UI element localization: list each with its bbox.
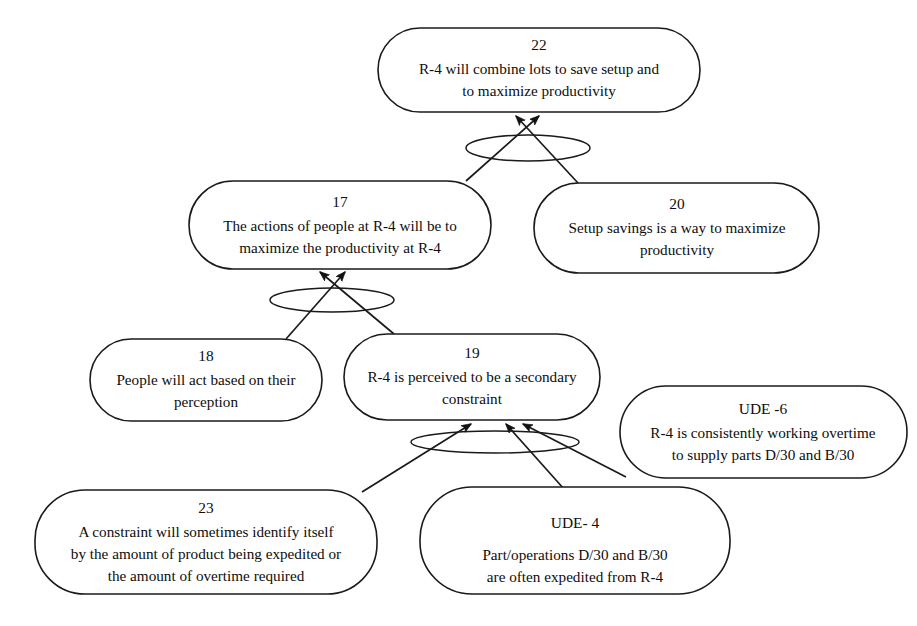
node-ude-4-line-2: are often expedited from R-4 [487,568,664,585]
node-20-line-2: productivity [640,241,715,258]
node-19-line-2: constraint [442,390,503,407]
node-ude-6[interactable]: UDE -6 R-4 is consistently working overt… [620,386,907,478]
node-19-id: 19 [464,344,480,361]
and-ellipse-into-22 [466,135,590,161]
node-ude-6-line-2: to supply parts D/30 and B/30 [672,446,855,463]
node-19[interactable]: 19 R-4 is perceived to be a secondary co… [344,334,600,420]
node-18-line-2: perception [174,393,239,410]
node-ude-4-id: UDE- 4 [551,514,600,531]
node-17-id: 17 [332,193,348,210]
node-ude-6-line-1: R-4 is consistently working overtime [650,424,876,441]
edge-17-to-22 [466,116,539,181]
edge-20-to-22 [516,116,578,183]
node-20[interactable]: 20 Setup savings is a way to maximize pr… [534,183,819,273]
node-23-line-3: the amount of overtime required [108,567,305,584]
node-19-line-1: R-4 is perceived to be a secondary [367,368,577,385]
edge-19-to-17 [320,272,394,334]
node-23-line-2: by the amount of product being expedited… [71,545,341,562]
node-23-id: 23 [198,499,214,516]
node-22-line-1: R-4 will combine lots to save setup and [419,60,659,77]
node-23-line-1: A constraint will sometimes identify its… [78,523,334,540]
and-ellipse-into-19 [411,431,579,453]
edge-23-to-19 [362,424,471,492]
node-22-line-2: to maximize productivity [462,82,616,99]
node-18-id: 18 [198,347,214,364]
edge-group [286,116,626,492]
node-23[interactable]: 23 A constraint will sometimes identify … [35,490,377,594]
diagram-canvas: 22 R-4 will combine lots to save setup a… [0,0,917,626]
node-17-line-1: The actions of people at R-4 will be to [223,217,457,234]
node-22-id: 22 [531,36,546,53]
node-18-line-1: People will act based on their [116,371,295,388]
crt-diagram: 22 R-4 will combine lots to save setup a… [0,0,917,626]
node-17-line-2: maximize the productivity at R-4 [239,239,441,256]
node-ude-4[interactable]: UDE- 4 Part/operations D/30 and B/30 are… [420,487,730,594]
node-17[interactable]: 17 The actions of people at R-4 will be … [189,181,491,269]
and-ellipse-into-17 [270,288,394,312]
node-ude-4-line-1: Part/operations D/30 and B/30 [482,546,668,563]
node-22[interactable]: 22 R-4 will combine lots to save setup a… [378,28,700,112]
node-ude-6-id: UDE -6 [739,400,788,417]
node-18[interactable]: 18 People will act based on their percep… [90,339,322,421]
node-20-id: 20 [669,195,685,212]
edge-18-to-17 [286,272,345,339]
node-20-line-1: Setup savings is a way to maximize [569,219,786,236]
